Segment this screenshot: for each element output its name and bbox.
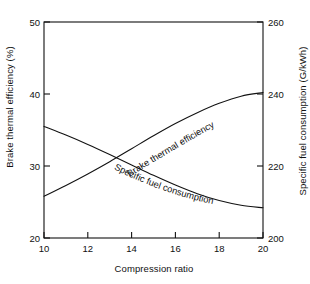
x-tick-label: 18 xyxy=(214,243,225,254)
y-left-tick-label: 40 xyxy=(29,89,40,100)
y-right-tick-label: 220 xyxy=(268,161,284,172)
x-axis-title: Compression ratio xyxy=(44,263,264,274)
x-ticks xyxy=(44,232,263,238)
y-axis-left-title: Brake thermal efficiency (%) xyxy=(4,0,18,222)
x-tick-label: 14 xyxy=(126,243,137,254)
x-tick-label: 16 xyxy=(170,243,181,254)
y-right-ticks xyxy=(257,22,263,238)
series-line-specific-fuel-consumption xyxy=(44,126,263,207)
y-right-tick-label: 200 xyxy=(268,233,284,244)
y-axis-right-title: Specific fuel consumption (G/kWh) xyxy=(297,6,310,236)
chart-figure: 50 40 30 20 260 240 220 200 10 12 14 16 … xyxy=(0,0,310,284)
x-tick-label: 12 xyxy=(83,243,94,254)
y-right-tick-label: 260 xyxy=(268,17,284,28)
chart-plot-area: 50 40 30 20 260 240 220 200 10 12 14 16 … xyxy=(0,0,310,284)
annotation-brake-thermal-efficiency: Brake thermal efficiency xyxy=(125,119,216,178)
y-left-tick-label: 50 xyxy=(29,17,40,28)
x-tick-label: 20 xyxy=(258,243,269,254)
plot-frame xyxy=(44,22,263,238)
y-left-tick-label: 30 xyxy=(29,161,40,172)
y-right-tick-label: 240 xyxy=(268,89,284,100)
y-left-ticks xyxy=(44,22,50,238)
x-tick-label: 10 xyxy=(39,243,50,254)
annotation-specific-fuel-consumption: Specific fuel consumption xyxy=(113,162,215,206)
